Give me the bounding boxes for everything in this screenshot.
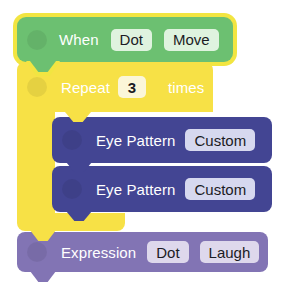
eye-pattern-block-1-handle-icon bbox=[62, 130, 82, 150]
eye-pattern-block-2[interactable]: Eye Pattern Custom bbox=[52, 166, 272, 212]
eye-pattern-block-1-label: Eye Pattern bbox=[96, 132, 175, 149]
expression-block-handle-icon bbox=[27, 242, 47, 262]
repeat-block-handle-icon bbox=[27, 77, 47, 97]
when-block-event-field[interactable]: Move bbox=[164, 29, 219, 51]
eye-pattern-block-2-label: Eye Pattern bbox=[96, 181, 175, 198]
when-block-label: When bbox=[59, 31, 99, 48]
when-block[interactable]: When Dot Move bbox=[17, 17, 233, 62]
expression-block-target-field[interactable]: Dot bbox=[147, 241, 188, 263]
repeat-block-count-field[interactable]: 3 bbox=[118, 76, 146, 98]
expression-block-label: Expression bbox=[61, 244, 136, 261]
eye-pattern-block-1-pattern-field[interactable]: Custom bbox=[185, 129, 255, 151]
expression-block-emotion-field[interactable]: Laugh bbox=[200, 241, 260, 263]
eye-pattern-block-2-handle-icon bbox=[62, 179, 82, 199]
expression-block-connector-tab bbox=[30, 271, 56, 282]
expression-block[interactable]: Expression Dot Laugh bbox=[17, 232, 268, 272]
eye-pattern-block-2-pattern-field[interactable]: Custom bbox=[185, 178, 255, 200]
eye-pattern-block-1[interactable]: Eye Pattern Custom bbox=[52, 117, 272, 163]
when-block-target-field[interactable]: Dot bbox=[111, 29, 152, 51]
repeat-block-label-before: Repeat bbox=[61, 79, 110, 96]
block-canvas[interactable]: When Dot Move Repeat 3 times Eye Pattern… bbox=[0, 0, 292, 296]
repeat-block-left-arm[interactable] bbox=[17, 108, 55, 218]
repeat-block-label-after: times bbox=[168, 79, 204, 96]
when-block-handle-icon bbox=[27, 30, 47, 50]
